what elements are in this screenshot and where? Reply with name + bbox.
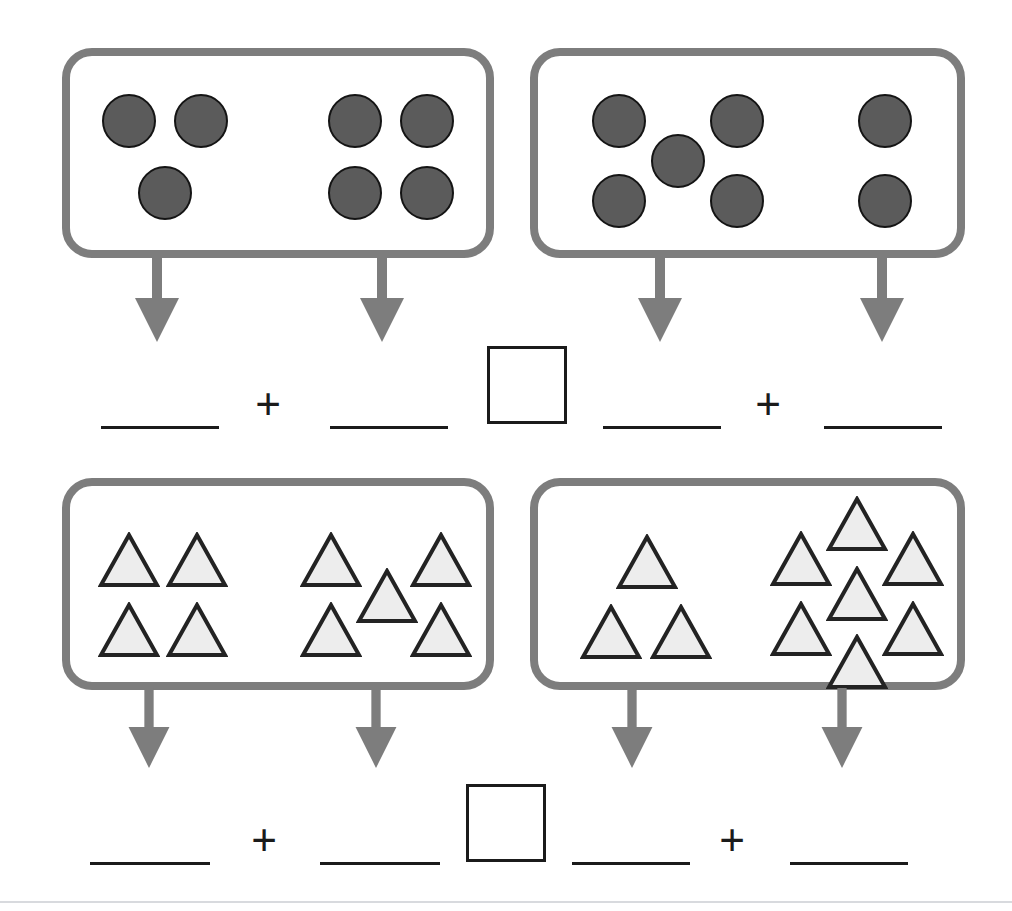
circle-counter — [651, 134, 705, 188]
triangle-counter — [300, 532, 362, 588]
circle-counter — [174, 94, 228, 148]
answer-blank-problem-3-left[interactable] — [90, 862, 210, 865]
triangle-counter — [98, 602, 160, 658]
triangle-counter — [98, 532, 160, 588]
triangle-counter — [826, 634, 888, 690]
plus-operator-problem-4: + — [712, 818, 752, 862]
circle-counter — [138, 166, 192, 220]
triangle-counter — [770, 601, 832, 657]
answer-blank-problem-3-right[interactable] — [320, 862, 440, 865]
circle-counter — [400, 166, 454, 220]
triangle-counter — [166, 602, 228, 658]
answer-blank-problem-2-right[interactable] — [824, 426, 942, 429]
circle-counter — [328, 166, 382, 220]
circle-counter — [592, 94, 646, 148]
triangle-counter — [616, 534, 678, 590]
group-box-problem-3 — [62, 478, 494, 690]
circle-counter — [102, 94, 156, 148]
arrow-down-icon — [818, 688, 866, 768]
triangle-counter — [650, 604, 712, 660]
triangle-counter — [882, 601, 944, 657]
arrow-down-icon — [125, 688, 173, 768]
triangle-counter — [580, 604, 642, 660]
answer-blank-problem-1-left[interactable] — [101, 426, 219, 429]
answer-blank-problem-1-right[interactable] — [330, 426, 448, 429]
comparison-box-row-1[interactable] — [487, 346, 567, 424]
circle-counter — [710, 174, 764, 228]
circle-counter — [400, 94, 454, 148]
triangle-counter — [410, 602, 472, 658]
triangle-counter — [410, 532, 472, 588]
plus-operator-problem-3: + — [244, 818, 284, 862]
triangle-counter — [826, 566, 888, 622]
plus-operator-problem-1: + — [248, 382, 288, 426]
arrow-down-icon — [133, 256, 181, 342]
triangle-counter — [300, 602, 362, 658]
triangle-counter — [882, 531, 944, 587]
circle-counter — [328, 94, 382, 148]
arrow-down-icon — [636, 256, 684, 342]
arrow-down-icon — [352, 688, 400, 768]
arrow-down-icon — [358, 256, 406, 342]
triangle-counter — [770, 531, 832, 587]
triangle-counter — [826, 496, 888, 552]
triangle-counter — [356, 568, 418, 624]
circle-counter — [858, 174, 912, 228]
page-bottom-edge — [0, 901, 1012, 903]
group-box-problem-2 — [530, 48, 965, 258]
answer-blank-problem-2-left[interactable] — [603, 426, 721, 429]
group-box-problem-1 — [62, 48, 494, 258]
arrow-down-icon — [858, 256, 906, 342]
group-box-problem-4 — [530, 478, 965, 690]
triangle-counter — [166, 532, 228, 588]
answer-blank-problem-4-right[interactable] — [790, 862, 908, 865]
arrow-down-icon — [608, 688, 656, 768]
answer-blank-problem-4-left[interactable] — [572, 862, 690, 865]
comparison-box-row-2[interactable] — [466, 784, 546, 862]
circle-counter — [710, 94, 764, 148]
worksheet-page: + + — [0, 0, 1012, 911]
plus-operator-problem-2: + — [748, 382, 788, 426]
circle-counter — [858, 94, 912, 148]
circle-counter — [592, 174, 646, 228]
